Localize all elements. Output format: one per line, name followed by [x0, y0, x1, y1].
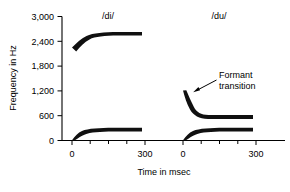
- formant-transition-chart: 3,000 2,400 1,800 1,200 600 0 Frequency …: [0, 0, 290, 192]
- x-tick-label-left-300: 300: [137, 149, 152, 159]
- annotation-line-2: transition: [219, 81, 256, 91]
- formant-band-du-f1: [183, 128, 253, 141]
- formant-band-di-f2: [72, 32, 142, 52]
- formant-band-di-f1: [72, 128, 142, 141]
- formant-band-du-f2: [183, 90, 253, 119]
- x-tick-label-left-0: 0: [69, 149, 74, 159]
- y-tick-label-0: 0: [49, 136, 54, 146]
- y-tick-label-3000: 3,000: [31, 12, 54, 22]
- panel-du-formants: [183, 90, 253, 140]
- y-axis: 3,000 2,400 1,800 1,200 600 0 Frequency …: [8, 12, 62, 146]
- x-axis-title: Time in msec: [137, 167, 191, 177]
- chart-svg: 3,000 2,400 1,800 1,200 600 0 Frequency …: [0, 0, 290, 192]
- y-axis-title: Frequency in Hz: [8, 45, 18, 111]
- x-tick-label-right-300: 300: [248, 149, 263, 159]
- annotation-arrow-head-icon: [193, 87, 200, 92]
- y-tick-label-1800: 1,800: [31, 61, 54, 71]
- annotation-arrow-line: [197, 80, 217, 91]
- y-tick-label-2400: 2,400: [31, 37, 54, 47]
- formant-transition-annotation: Formant transition: [193, 70, 255, 92]
- panel-di-formants: [72, 32, 142, 140]
- y-tick-label-1200: 1,200: [31, 86, 54, 96]
- annotation-line-1: Formant: [219, 70, 253, 80]
- panel-label-du: /du/: [211, 11, 227, 21]
- x-axis: 0 300 0 300 Time in msec: [62, 141, 285, 178]
- panel-label-di: /di/: [102, 11, 115, 21]
- y-tick-label-600: 600: [39, 111, 54, 121]
- x-tick-label-right-0: 0: [180, 149, 185, 159]
